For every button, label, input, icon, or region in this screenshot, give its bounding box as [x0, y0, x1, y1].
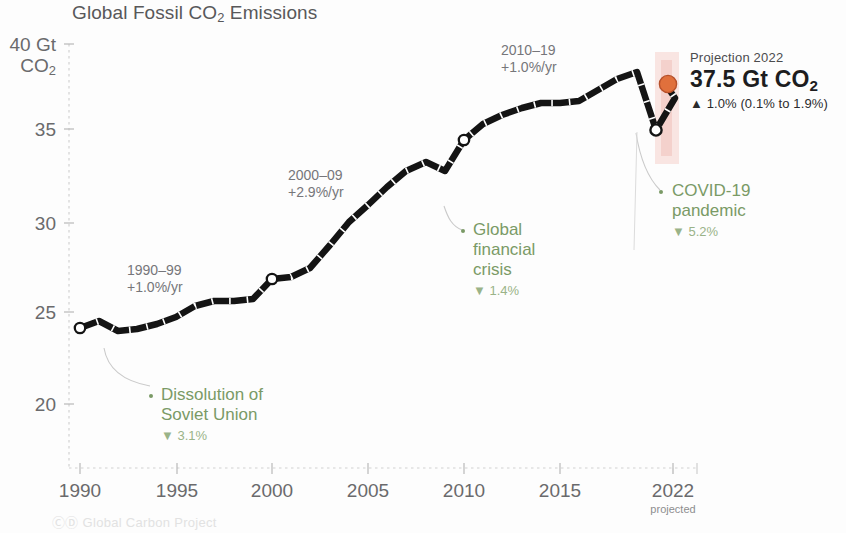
projection-range: ▲ 1.0% (0.1% to 1.9%) — [690, 96, 828, 111]
projection-kicker: Projection 2022 — [690, 50, 828, 65]
credit-text: Global Carbon Project — [83, 515, 217, 530]
projection-point-2022 — [659, 75, 676, 92]
event-note-financial-crisis: Global financial crisis ▼ 1.4% — [473, 220, 535, 301]
event-note-soviet-union: Dissolution of Soviet Union ▼ 3.1% — [161, 385, 263, 446]
event-note-soviet-union-pct: ▼ 3.1% — [161, 426, 263, 446]
event-note-financial-crisis-line3: crisis — [473, 260, 535, 280]
event-note-covid-pct: ▼ 5.2% — [672, 222, 750, 242]
event-note-covid-line1: COVID-19 — [672, 181, 750, 201]
marker-2010 — [459, 135, 469, 145]
drop-line-2020 — [634, 132, 637, 250]
decade-note-2000s: 2000–09 +2.9%/yr — [288, 167, 344, 201]
decade-note-1990s-period: 1990–99 — [127, 262, 183, 279]
event-note-covid-line2: pandemic — [672, 201, 750, 221]
event-note-soviet-union-line2: Soviet Union — [161, 405, 263, 425]
decade-note-1990s-rate: +1.0%/yr — [127, 279, 183, 296]
event-dot-covid — [659, 190, 663, 194]
decade-note-1990s: 1990–99 +1.0%/yr — [127, 262, 183, 296]
credit-line: ⒸⒹ Global Carbon Project — [52, 512, 217, 531]
marker-1990 — [75, 323, 85, 333]
event-note-financial-crisis-pct: ▼ 1.4% — [473, 281, 535, 301]
marker-2000 — [267, 274, 277, 284]
projection-value: 37.5 Gt CO2 — [690, 66, 828, 93]
decade-note-2000s-period: 2000–09 — [288, 167, 344, 184]
co2-emissions-chart-figure: Global Fossil CO2 Emissions 40 Gt CO2 35… — [0, 0, 846, 533]
event-dot-financial-crisis — [461, 229, 465, 233]
event-note-financial-crisis-line1: Global — [473, 220, 535, 240]
event-note-financial-crisis-line2: financial — [473, 240, 535, 260]
event-dot-soviet-union — [149, 394, 153, 398]
decade-note-2000s-rate: +2.9%/yr — [288, 184, 344, 201]
event-note-covid: COVID-19 pandemic ▼ 5.2% — [672, 181, 750, 242]
event-note-soviet-union-line1: Dissolution of — [161, 385, 263, 405]
leader-line-financial-crisis — [444, 206, 462, 230]
decade-note-2010s: 2010–19 +1.0%/yr — [501, 42, 557, 76]
decade-note-2010s-period: 2010–19 — [501, 42, 557, 59]
leader-line-soviet-union — [104, 348, 150, 386]
creative-commons-icon: ⒸⒹ — [52, 515, 79, 530]
projection-value-text: 37.5 Gt CO — [690, 66, 810, 92]
marker-2020 — [650, 124, 661, 135]
projection-value-subscript: 2 — [810, 77, 819, 94]
decade-note-2010s-rate: +1.0%/yr — [501, 59, 557, 76]
projection-callout: Projection 2022 37.5 Gt CO2 ▲ 1.0% (0.1%… — [690, 50, 828, 111]
